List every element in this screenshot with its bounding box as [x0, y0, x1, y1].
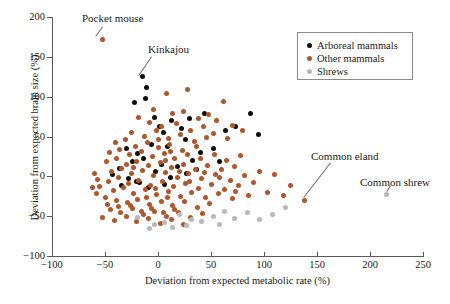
data-point-arboreal — [144, 85, 149, 90]
data-point-arboreal — [256, 132, 261, 137]
x-tick-label: −100 — [29, 259, 75, 270]
data-point-other — [207, 201, 212, 206]
data-point-other — [214, 118, 219, 123]
data-point-other — [205, 163, 210, 168]
data-point-other — [108, 207, 113, 212]
data-point-other — [116, 204, 121, 209]
data-point-other — [107, 150, 112, 155]
data-point-other — [118, 210, 123, 215]
data-point-other — [224, 158, 229, 163]
x-tick-label: 100 — [241, 259, 287, 270]
data-point-shrew — [384, 192, 389, 197]
legend-item: Shrews — [307, 65, 348, 78]
data-point-other — [127, 152, 132, 157]
data-point-other — [225, 136, 230, 141]
data-point-arboreal — [179, 126, 184, 131]
annotation-label: Kinkajou — [148, 43, 189, 55]
data-point-other — [117, 147, 122, 152]
annotation-label: Pocket mouse — [82, 12, 143, 24]
data-point-arboreal — [183, 137, 188, 142]
data-point-other — [242, 173, 247, 178]
data-point-other — [228, 178, 233, 183]
data-point-other — [236, 183, 241, 188]
data-point-arboreal — [187, 116, 192, 121]
data-point-other — [92, 171, 97, 176]
y-axis-title: Deviation from expected brain size (%) — [29, 38, 40, 238]
data-point-other — [204, 135, 209, 140]
data-point-other — [238, 153, 243, 158]
data-point-other — [114, 156, 119, 161]
data-point-other — [216, 191, 221, 196]
data-point-other — [159, 124, 164, 129]
data-point-other — [201, 124, 206, 129]
data-point-other — [265, 190, 270, 195]
data-point-arboreal — [223, 128, 228, 133]
data-point-other — [175, 175, 180, 180]
legend-item-label: Shrews — [317, 66, 348, 77]
data-point-other — [95, 177, 100, 182]
data-point-other — [240, 128, 245, 133]
data-point-shrew — [199, 219, 204, 224]
data-point-other — [166, 136, 171, 141]
x-tick-label: 0 — [135, 259, 181, 270]
data-point-other — [109, 169, 114, 174]
data-point-other — [165, 195, 170, 200]
y-tick — [47, 216, 52, 217]
data-point-other — [169, 217, 174, 222]
data-point-other — [94, 191, 99, 196]
annotation-leader-line — [303, 162, 331, 198]
data-point-other — [106, 179, 111, 184]
data-point-other — [151, 107, 156, 112]
data-point-other — [129, 130, 134, 135]
data-point-other — [105, 202, 110, 207]
x-tick — [423, 252, 424, 257]
annotation-leader-line — [95, 26, 103, 37]
data-point-shrew — [170, 225, 175, 230]
data-point-other — [170, 111, 175, 116]
data-point-arboreal — [152, 115, 157, 120]
x-axis-title: Deviation from expected metabolic rate (… — [52, 275, 423, 286]
data-point-other — [178, 132, 183, 137]
data-point-shrew — [270, 212, 275, 217]
x-tick — [158, 252, 159, 257]
x-tick — [370, 252, 371, 257]
data-point-arboreal — [141, 156, 146, 161]
data-point-other — [126, 181, 131, 186]
x-tick — [52, 252, 53, 257]
data-point-other — [169, 165, 174, 170]
data-point-other — [194, 144, 199, 149]
scatter-chart: −100−50050100150200 −100−500501001502002… — [0, 0, 450, 304]
data-point-other — [163, 158, 168, 163]
data-point-other — [171, 184, 176, 189]
data-point-shrew — [211, 214, 216, 219]
data-point-arboreal — [143, 96, 148, 101]
x-tick-label: 250 — [400, 259, 446, 270]
legend-swatch-icon — [307, 69, 312, 74]
x-tick-label: 150 — [294, 259, 340, 270]
data-point-other — [185, 87, 190, 92]
data-point-other — [111, 188, 116, 193]
data-point-arboreal — [124, 146, 129, 151]
data-point-other — [181, 109, 186, 114]
data-point-other — [116, 175, 121, 180]
data-point-other — [131, 191, 136, 196]
y-tick — [47, 137, 52, 138]
data-point-other — [232, 164, 237, 169]
data-point-other — [178, 194, 183, 199]
data-point-other — [153, 186, 158, 191]
data-point-other — [154, 192, 159, 197]
data-point-other — [186, 171, 191, 176]
data-point-other — [144, 195, 149, 200]
data-point-other — [288, 183, 293, 188]
data-point-other — [172, 156, 177, 161]
data-point-shrew — [135, 215, 140, 220]
data-point-arboreal — [248, 111, 253, 116]
data-point-other — [134, 159, 139, 164]
data-point-other — [211, 131, 216, 136]
data-point-other — [189, 190, 194, 195]
data-point-other — [146, 216, 151, 221]
x-tick — [105, 252, 106, 257]
data-point-other — [203, 195, 208, 200]
data-point-other — [119, 166, 124, 171]
data-point-other — [100, 37, 105, 42]
